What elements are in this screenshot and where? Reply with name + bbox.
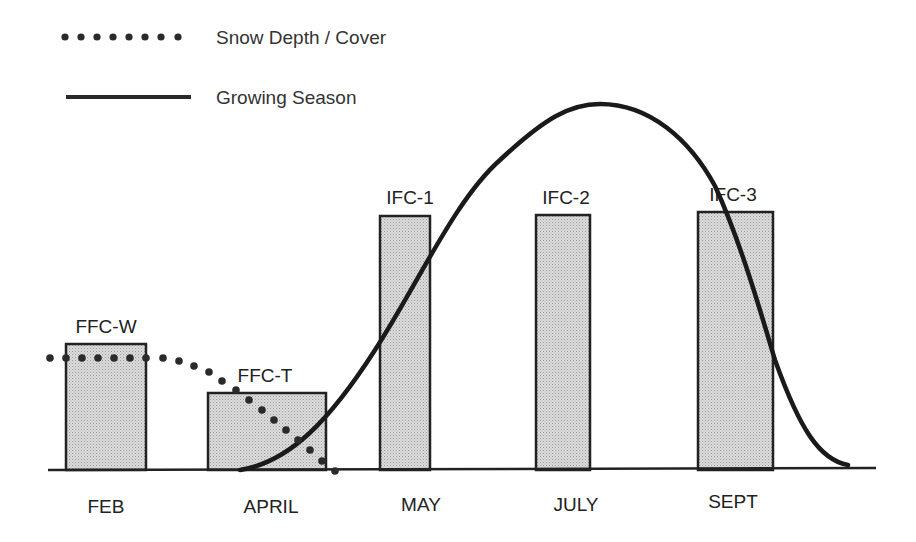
month-label-may: MAY bbox=[401, 494, 441, 515]
bar-label-ffc-t: FFC-T bbox=[238, 365, 293, 386]
bar-label-ifc-1: IFC-1 bbox=[386, 187, 434, 208]
bar-ifc-1 bbox=[380, 216, 430, 470]
legend: Snow Depth / Cover Growing Season bbox=[61, 27, 386, 108]
bar-label-ffc-w: FFC-W bbox=[75, 316, 136, 337]
bar-label-ifc-2: IFC-2 bbox=[542, 187, 590, 208]
legend-item-snow: Snow Depth / Cover bbox=[61, 27, 386, 48]
month-label-april: APRIL bbox=[244, 496, 299, 517]
bar-ifc-2 bbox=[536, 215, 590, 470]
month-label-july: JULY bbox=[553, 494, 598, 515]
legend-label: Snow Depth / Cover bbox=[216, 27, 387, 48]
month-labels: FEB APRIL MAY JULY SEPT bbox=[88, 491, 759, 517]
bars bbox=[66, 212, 773, 470]
legend-label: Growing Season bbox=[216, 87, 356, 108]
legend-item-growing: Growing Season bbox=[66, 87, 356, 108]
dotted-line-icon bbox=[61, 33, 181, 40]
bar-ifc-3 bbox=[698, 212, 773, 470]
month-label-sept: SEPT bbox=[708, 491, 758, 512]
month-label-feb: FEB bbox=[88, 496, 125, 517]
diagram-canvas: Snow Depth / Cover Growing Season FFC-W … bbox=[0, 0, 916, 542]
bar-ffc-w bbox=[66, 344, 146, 470]
